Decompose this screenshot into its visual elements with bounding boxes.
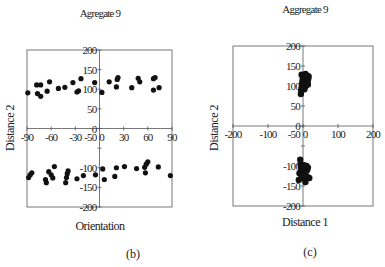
y-tick-label: 150 (286, 60, 301, 72)
x-tick-label: -30 (69, 131, 83, 143)
x-tick-label: 30 (119, 131, 130, 143)
data-point-cluster-lower (145, 159, 150, 164)
data-point-cluster-lower (93, 172, 98, 177)
x-tick-label: 100 (331, 128, 346, 140)
panel-c-distance-plot: Aggregate 9 -200-1000100200200150100500-… (207, 3, 381, 259)
panel-b-axes: -90-60-300306090200150100500-50-100-150-… (21, 44, 178, 213)
data-point-cluster-lower (63, 180, 68, 185)
data-point-cluster-upper (25, 90, 30, 95)
y-tick-label: 150 (82, 64, 97, 76)
y-tick-label: -100 (80, 162, 98, 174)
panel-c-ylabel: Distance 2 (207, 105, 221, 151)
data-point-cluster-lower (100, 166, 105, 171)
data-point-cluster-upper (305, 81, 311, 87)
data-point-cluster-lower (156, 164, 161, 169)
data-point-cluster-upper (70, 80, 75, 85)
data-point-cluster-lower (50, 175, 55, 180)
data-point-cluster-lower (74, 176, 79, 181)
y-tick-label: -200 (283, 200, 301, 212)
data-point-cluster-upper (45, 89, 50, 94)
data-point-cluster-lower (134, 166, 139, 171)
data-point-cluster-lower (81, 173, 86, 178)
data-point-cluster-lower (305, 164, 311, 170)
data-point-cluster-upper (38, 82, 43, 87)
data-point-cluster-lower (114, 165, 119, 170)
panel-b-label: (b) (126, 247, 140, 261)
x-tick-label: 0 (99, 131, 105, 143)
y-tick-label: -50 (84, 131, 98, 143)
y-tick-label: -150 (80, 181, 98, 193)
x-tick-label: 90 (167, 131, 178, 143)
data-point-cluster-lower (143, 170, 148, 175)
data-point-cluster-lower (52, 164, 57, 169)
data-point-cluster-upper (38, 94, 43, 99)
panel-b-title: Agregate 9 (80, 7, 122, 19)
data-point-cluster-lower (44, 180, 49, 185)
panel-c-xlabel: Distance 1 (282, 215, 328, 229)
data-point-cluster-lower (29, 170, 34, 175)
y-tick-label: 50 (291, 100, 302, 112)
data-point-cluster-lower (112, 174, 117, 179)
y-tick-label: 100 (82, 83, 97, 95)
data-point-cluster-lower (65, 168, 70, 173)
data-point-cluster-upper (92, 80, 97, 85)
data-point-cluster-upper (152, 75, 157, 80)
y-tick-label: 50 (87, 103, 98, 115)
data-point-cluster-upper (305, 73, 311, 79)
data-point-cluster-upper (115, 75, 120, 80)
x-tick-label: 60 (143, 131, 154, 143)
x-tick-label: -200 (225, 128, 243, 140)
x-tick-label: -100 (260, 128, 278, 140)
data-point-cluster-upper (62, 85, 67, 90)
data-point-cluster-upper (114, 84, 119, 89)
panel-c-title: Aggregate 9 (282, 3, 329, 15)
data-point-cluster-upper (107, 79, 112, 84)
data-point-cluster-upper (157, 85, 162, 90)
data-point-cluster-lower (306, 175, 312, 181)
y-tick-label: -200 (80, 201, 98, 213)
data-point-cluster-upper (47, 79, 52, 84)
data-point-cluster-upper (56, 86, 61, 91)
x-tick-label: 200 (366, 128, 381, 140)
data-point-cluster-lower (122, 164, 127, 169)
y-tick-label: 200 (82, 44, 97, 56)
panel-b-ylabel: Distance 2 (3, 105, 17, 151)
x-tick-label: -90 (21, 131, 35, 143)
data-point-cluster-upper (129, 85, 134, 90)
y-tick-label: 200 (286, 40, 301, 52)
panel-b-xlabel: Orientation (75, 219, 125, 233)
data-point-cluster-upper (151, 87, 156, 92)
panel-c-axes: -200-1000100200200150100500-50-100-150-2… (225, 40, 382, 212)
data-point-cluster-upper (99, 90, 104, 95)
data-point-cluster-lower (102, 177, 107, 182)
data-point-cluster-upper (137, 79, 142, 84)
panel-b-orientation-plot: Agregate 9 -90-60-300306090200150100500-… (3, 7, 178, 261)
y-tick-label: -50 (288, 128, 302, 140)
data-point-cluster-upper (76, 88, 81, 93)
data-point-cluster-lower (168, 173, 173, 178)
data-point-cluster-upper (78, 76, 83, 81)
x-tick-label: 0 (303, 128, 309, 140)
panel-c-label: (c) (303, 245, 316, 259)
figure: Agregate 9 -90-60-300306090200150100500-… (0, 0, 385, 267)
x-tick-label: -60 (45, 131, 59, 143)
